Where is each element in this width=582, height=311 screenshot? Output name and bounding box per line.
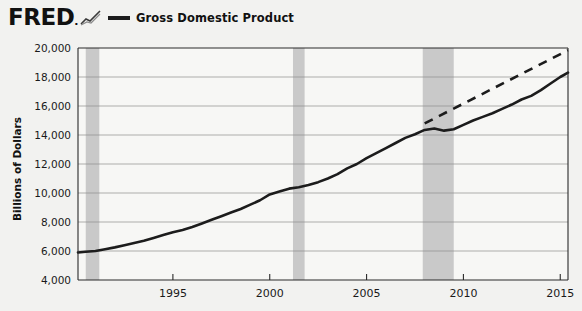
fred-chart-page: FRED. Gross Domestic Product Billions of… <box>0 0 582 311</box>
y-tick-label: 12,000 <box>34 158 71 170</box>
y-tick-label: 8,000 <box>41 216 71 228</box>
y-tick-label: 10,000 <box>34 187 71 199</box>
x-tick-label: 1995 <box>159 287 187 300</box>
y-tick-label: 16,000 <box>34 100 71 112</box>
y-tick-labels: 4,0006,0008,00010,00012,00014,00016,0001… <box>34 42 71 286</box>
y-tick-label: 4,000 <box>41 274 71 286</box>
y-tick-label: 6,000 <box>41 245 71 257</box>
x-tick-label: 2010 <box>449 287 477 300</box>
x-tick-labels: 19952000200520102015 <box>159 287 574 300</box>
y-tick-label: 14,000 <box>34 129 71 141</box>
x-tick-label: 2000 <box>256 287 284 300</box>
x-tick-label: 2005 <box>353 287 381 300</box>
y-tick-label: 20,000 <box>34 42 71 54</box>
x-tick-label: 2015 <box>546 287 574 300</box>
gdp-line-chart: 4,0006,0008,00010,00012,00014,00016,0001… <box>0 0 582 311</box>
y-tick-label: 18,000 <box>34 71 71 83</box>
